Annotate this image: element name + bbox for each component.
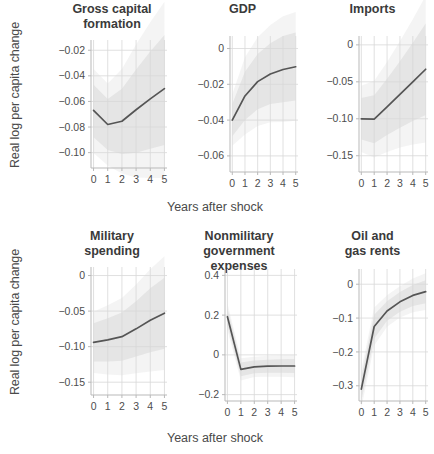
y-axis-label-top: Real log per capita change [8,10,30,180]
x-tick-label: 3 [265,406,271,418]
x-tick-label: 0 [91,173,97,185]
panel-nonmilitary-government-expenses: Nonmilitary government expenses 0.40.20−… [178,227,300,454]
y-tick-label: 0.4 [204,269,219,281]
x-tick-label: 2 [384,406,390,418]
y-tick-label: −0.08 [58,121,85,133]
x-tick-label: 1 [242,177,248,189]
plot-svg: 0−0.05−0.10−0.15012345 [52,227,172,454]
panel-oil-and-gas-rents: Oil and gas rents 0−0.1−0.2−0.3012345 [315,227,430,454]
y-tick-label: −0.15 [58,376,85,388]
y-tick-label: −0.04 [58,69,85,81]
x-tick-label: 3 [133,173,139,185]
panel-row-bottom: Real log per capita change Military spen… [0,227,434,454]
x-tick-label: 4 [410,406,416,418]
x-tick-label: 3 [397,177,403,189]
confidence-band [94,278,165,362]
panel-row-top: Real log per capita change Gross capital… [0,0,434,227]
x-tick-label: 4 [147,173,153,185]
y-tick-label: −0.02 [197,78,224,90]
x-tick-label: 2 [251,406,257,418]
y-tick-label: −0.02 [58,44,85,56]
y-tick-label: −0.05 [326,75,353,87]
y-tick-label: 0.2 [204,309,219,321]
x-tick-label: 2 [119,400,125,412]
y-tick-label: 0 [213,348,219,360]
x-tick-label: 3 [267,177,273,189]
x-tick-label: 5 [292,406,298,418]
y-tick-label: −0.3 [332,379,353,391]
panel-imports: Imports 0−0.05−0.10−0.15012345 [315,0,430,227]
x-tick-label: 5 [423,406,429,418]
plot-svg: −0.02−0.04−0.06−0.08−0.10012345 [52,0,172,227]
x-tick-label: 3 [133,400,139,412]
y-tick-label: 0 [347,278,353,290]
plot-svg: 0−0.05−0.10−0.15012345 [315,0,430,227]
plot-area: 0−0.1−0.2−0.3012345 [315,227,430,454]
y-tick-label: −0.06 [58,95,85,107]
y-axis-label-bottom: Real log per capita change [8,237,30,407]
x-tick-label: 0 [358,406,364,418]
plot-svg: 0.40.20−0.2012345 [178,227,300,454]
y-tick-label: −0.2 [332,346,353,358]
y-tick-label: −0.15 [326,149,353,161]
y-tick-label: −0.10 [58,340,85,352]
x-tick-label: 5 [293,177,299,189]
y-tick-label: −0.06 [197,149,224,161]
plot-area: −0.02−0.04−0.06−0.08−0.10012345 [52,0,172,227]
y-tick-label: −0.2 [198,388,219,400]
y-tick-label: −0.1 [332,312,353,324]
y-tick-label: −0.04 [197,114,224,126]
x-tick-label: 0 [229,177,235,189]
panel-military-spending: Military spending 0−0.05−0.10−0.15012345 [52,227,172,454]
y-tick-label: −0.10 [326,112,353,124]
x-tick-label: 2 [119,173,125,185]
x-tick-label: 4 [147,400,153,412]
plot-area: 0−0.05−0.10−0.15012345 [315,0,430,227]
x-tick-label: 4 [278,406,284,418]
x-tick-label: 0 [358,177,364,189]
y-tick-label: −0.10 [58,146,85,158]
x-tick-label: 4 [410,177,416,189]
x-axis-label-top: Years after shock [125,200,305,214]
x-tick-label: 2 [255,177,261,189]
x-tick-label: 2 [384,177,390,189]
y-tick-label: 0 [218,42,224,54]
x-tick-label: 5 [162,173,168,185]
plot-svg: 0−0.1−0.2−0.3012345 [315,227,430,454]
x-tick-label: 1 [238,406,244,418]
plot-area: 0.40.20−0.2012345 [178,227,300,454]
x-tick-label: 1 [371,406,377,418]
x-tick-label: 5 [423,177,429,189]
x-tick-label: 1 [105,173,111,185]
plot-area: 0−0.05−0.10−0.15012345 [52,227,172,454]
y-tick-label: 0 [347,38,353,50]
y-tick-label: −0.05 [58,305,85,317]
x-tick-label: 1 [371,177,377,189]
panel-gdp: GDP 0−0.02−0.04−0.06012345 [185,0,300,227]
x-tick-label: 5 [162,400,168,412]
x-tick-label: 0 [91,400,97,412]
plot-svg: 0−0.02−0.04−0.06012345 [185,0,300,227]
figure-panel-grid: Real log per capita change Gross capital… [0,0,434,454]
y-tick-label: 0 [79,269,85,281]
plot-area: 0−0.02−0.04−0.06012345 [185,0,300,227]
x-tick-label: 3 [397,406,403,418]
x-tick-label: 1 [105,400,111,412]
x-axis-label-bottom: Years after shock [125,431,305,445]
x-tick-label: 0 [224,406,230,418]
x-tick-label: 4 [280,177,286,189]
panel-gross-capital-formation: Gross capital formation −0.02−0.04−0.06−… [52,0,172,227]
